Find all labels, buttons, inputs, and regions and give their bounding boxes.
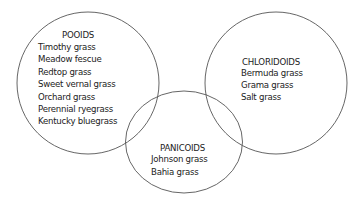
pooids-label: POOIDS (62, 30, 94, 40)
list-item: Johnson grass (151, 153, 208, 166)
list-item: Sweet vernal grass (38, 78, 117, 90)
venn-diagram: POOIDS Timothy grass Meadow fescue Redto… (0, 0, 363, 201)
chloridoids-label: CHLORIDOIDS (242, 57, 300, 67)
list-item: Grama grass (241, 79, 303, 91)
chloridoids-list: Bermuda grass Grama grass Salt grass (241, 67, 303, 103)
list-item: Salt grass (241, 91, 303, 103)
list-item: Redtop grass (38, 66, 117, 78)
panicoids-list: Johnson grass Bahia grass (151, 153, 208, 178)
panicoids-label: PANICOIDS (160, 143, 205, 153)
list-item: Bermuda grass (241, 67, 303, 79)
list-item: Orchard grass (38, 91, 117, 103)
list-item: Timothy grass (38, 41, 117, 53)
list-item: Bahia grass (151, 166, 208, 179)
list-item: Perennial ryegrass (38, 103, 117, 115)
list-item: Kentucky bluegrass (38, 115, 117, 127)
list-item: Meadow fescue (38, 53, 117, 65)
pooids-list: Timothy grass Meadow fescue Redtop grass… (38, 41, 117, 128)
